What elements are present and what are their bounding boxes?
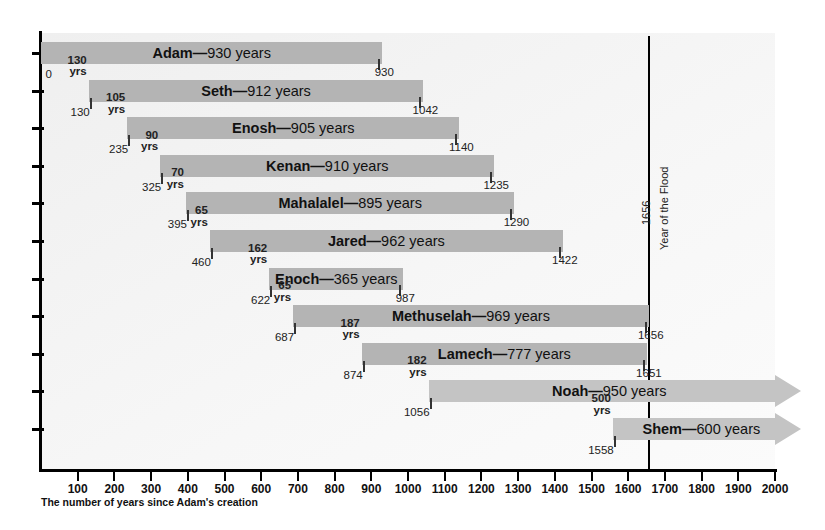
x-axis-tick <box>370 472 372 481</box>
x-axis-tick-label: 2000 <box>762 482 789 496</box>
x-axis-tick-label: 800 <box>325 482 345 496</box>
bar-end-year: 1651 <box>636 367 662 379</box>
bar-end-year: 1140 <box>449 141 474 153</box>
gap-years-label: 70yrs <box>167 167 184 190</box>
x-axis-tick-label: 1300 <box>505 482 532 496</box>
x-axis-tick-label: 300 <box>141 482 161 496</box>
timeline-row: Noah—950 years1056182yrs <box>0 380 825 402</box>
x-axis-tick <box>334 472 336 481</box>
x-axis-tick-label: 1500 <box>578 482 605 496</box>
x-axis-tick-label: 1900 <box>725 482 752 496</box>
bar-start-year: 687 <box>275 331 294 343</box>
bar-label: Enosh—905 years <box>127 117 459 139</box>
timeline-chart: 1002003004005006007008009001000110012001… <box>0 0 825 530</box>
bar-start-year: 874 <box>344 369 363 381</box>
x-axis-tick <box>407 472 409 481</box>
gap-years-label: 90yrs <box>141 130 158 153</box>
x-axis-tick <box>517 472 519 481</box>
bar-start-tick <box>161 173 163 184</box>
bar-start-year: 395 <box>168 218 187 230</box>
x-axis-tick <box>627 472 629 481</box>
x-axis-tick-label: 1600 <box>615 482 642 496</box>
bar-start-tick <box>614 436 616 447</box>
bar-start-year: 325 <box>142 181 161 193</box>
x-axis-tick <box>591 472 593 481</box>
x-axis-tick-label: 900 <box>361 482 381 496</box>
bar-start-tick <box>211 248 213 259</box>
x-axis-tick-label: 1200 <box>468 482 495 496</box>
x-axis-tick-label: 500 <box>214 482 234 496</box>
bar-end-year: 1290 <box>504 216 530 228</box>
timeline-row: Enosh—905 years2351140105yrs <box>0 117 825 139</box>
bar-start-tick <box>187 210 189 221</box>
timeline-row: Methuselah—969 years687165665yrs <box>0 305 825 327</box>
gap-years-label: 65yrs <box>274 280 291 303</box>
bar-label: Mahalalel—895 years <box>186 192 514 214</box>
gap-years-label: 182yrs <box>407 355 426 378</box>
gap-years-label: 65yrs <box>191 205 208 228</box>
x-axis-tick-label: 100 <box>68 482 88 496</box>
gap-years-label: 162yrs <box>248 243 267 266</box>
x-axis-caption: The number of years since Adam's creatio… <box>41 496 258 508</box>
x-axis-tick <box>77 472 79 481</box>
bar-start-year: 1056 <box>404 406 430 418</box>
gap-years-label: 500yrs <box>592 393 611 416</box>
x-axis-tick-label: 1100 <box>432 482 458 496</box>
bar-start-year: 1558 <box>588 444 614 456</box>
bar-start-tick <box>294 323 296 334</box>
bar-start-tick <box>363 361 365 372</box>
bar-label: Adam—930 years <box>41 42 382 64</box>
bar-end-year: 1422 <box>552 254 578 266</box>
x-axis-tick <box>774 472 776 481</box>
x-axis-tick-label: 1000 <box>395 482 422 496</box>
bar-label: Seth—912 years <box>89 80 424 102</box>
bar-start-year: 460 <box>192 256 211 268</box>
bar-label: Kenan—910 years <box>160 155 494 177</box>
bar-start-tick <box>430 398 432 409</box>
x-axis-tick <box>737 472 739 481</box>
x-axis-tick <box>444 472 446 481</box>
x-axis-tick <box>224 472 226 481</box>
x-axis-tick-label: 1800 <box>688 482 715 496</box>
x-axis-tick <box>113 472 115 481</box>
bar-start-tick <box>270 286 272 297</box>
bar-end-year: 1656 <box>638 329 664 341</box>
timeline-row: Enoch—365 years622987162yrs <box>0 268 825 290</box>
bar-end-year: 987 <box>396 292 415 304</box>
bar-label: Shem—600 years <box>613 418 790 440</box>
timeline-row: Adam—930 years0930 <box>0 42 825 64</box>
gap-years-label: 105yrs <box>106 92 125 115</box>
timeline-row: Shem—600 years1558500yrs <box>0 418 825 440</box>
timeline-row: Mahalalel—895 years395129070yrs <box>0 192 825 214</box>
bar-start-year: 235 <box>109 143 128 155</box>
bar-end-year: 1042 <box>413 104 439 116</box>
x-axis-tick <box>701 472 703 481</box>
bar-label: Lamech—777 years <box>362 343 647 365</box>
x-axis-tick-label: 700 <box>288 482 308 496</box>
timeline-row: Kenan—910 years325123590yrs <box>0 155 825 177</box>
x-axis-tick <box>480 472 482 481</box>
x-axis-tick <box>260 472 262 481</box>
bar-start-year: 622 <box>251 294 270 306</box>
gap-years-label: 187yrs <box>341 318 360 341</box>
x-axis-tick <box>554 472 556 481</box>
x-axis-tick-label: 1700 <box>652 482 679 496</box>
x-axis-tick-label: 400 <box>178 482 198 496</box>
bar-start-tick <box>128 135 130 146</box>
x-axis-tick-label: 1400 <box>541 482 568 496</box>
bar-start-year: 0 <box>46 68 52 80</box>
x-axis-tick <box>664 472 666 481</box>
gap-years-label: 130yrs <box>68 55 87 78</box>
timeline-row: Jared—962 years460142265yrs <box>0 230 825 252</box>
x-axis-tick-label: 200 <box>104 482 124 496</box>
x-axis-tick <box>150 472 152 481</box>
bar-end-year: 1235 <box>483 179 509 191</box>
x-axis-tick <box>187 472 189 481</box>
bar-start-year: 130 <box>71 106 90 118</box>
bar-end-year: 930 <box>375 66 394 78</box>
x-axis-tick-label: 600 <box>251 482 271 496</box>
x-axis-tick <box>297 472 299 481</box>
bar-start-tick <box>90 98 92 109</box>
